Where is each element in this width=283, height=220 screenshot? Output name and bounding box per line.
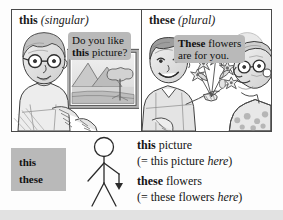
gloss-italic-here: here [207,154,228,168]
bubble-line-1: Do you like [72,34,127,46]
example-rest-flowers: flowers [163,174,202,188]
example-bold-this: this [137,138,156,152]
page-bottom-band [0,210,283,220]
gloss-suffix-this: ) [228,154,232,168]
page-root: this (singular) [0,0,283,220]
panel-plural: these (plural) [141,10,271,131]
bubble-bold-these: These [178,37,206,49]
bubble-rest-flowers: flowers [206,37,242,49]
speech-bubble-singular: Do you like this picture? [68,32,131,60]
bubble-line-2: are for you. [178,49,241,61]
heading-word-these: these [149,13,175,27]
example-line-these-flowers: these flowers [137,174,283,190]
panel-heading-singular: this (singular) [19,14,89,27]
bubble-rest-picture: picture? [89,46,127,58]
example-line-this-gloss: (= this picture here) [137,154,283,170]
gloss-prefix-this: (= this picture [137,154,207,168]
keyword-this: this [19,156,36,168]
heading-note-singular: (singular) [41,13,89,27]
downward-arrow [115,183,123,190]
bubble-line-2: this picture? [72,46,127,58]
bubble-bold-this: this [72,46,89,58]
keyword-box: this these [11,148,66,191]
scene-man-pointing-at-picture [12,10,141,131]
illustration-box: this (singular) [11,9,272,132]
gloss-suffix-these: ) [238,190,242,204]
example-line-these-gloss: (= these flowers here) [137,190,283,206]
example-bold-these: these [137,174,163,188]
examples-list: this picture (= this picture here) these… [137,138,283,205]
gloss-prefix-these: (= these flowers [137,190,217,204]
panel-singular: this (singular) [12,10,141,131]
bubble-line-1: These flowers [178,37,241,49]
example-line-this-picture: this picture [137,138,283,154]
gloss-italic-here-2: here [217,190,238,204]
keyword-these: these [19,173,43,185]
heading-word-this: this [19,13,38,27]
heading-note-plural: (plural) [178,13,215,27]
stick-figure-pointing-down [82,136,140,208]
scene-giving-flowers [142,10,271,131]
speech-bubble-plural: These flowers are for you. [174,35,245,63]
panel-heading-plural: these (plural) [149,14,215,27]
example-rest-picture: picture [156,138,192,152]
